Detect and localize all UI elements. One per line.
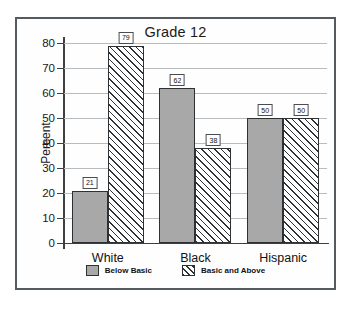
chart-figure: Grade 12 Percent 01020304050607080 2179W… [15,17,336,290]
y-axis-tick-label: 50 [42,112,55,124]
bar-hispanic-basic-and-above[interactable]: 50 [283,118,319,243]
bar-white-below-basic[interactable]: 21 [72,191,108,244]
bar-group: 6238Black [152,43,240,243]
bar-group: 5050Hispanic [239,43,327,243]
bar-value-label: 50 [258,104,273,116]
x-axis-category-label: White [92,251,124,265]
legend-label: Below Basic [105,266,152,275]
legend-swatch-icon [182,265,195,276]
x-axis-category-label: Hispanic [259,251,307,265]
y-axis-tick-label: 40 [42,137,55,149]
bar-black-below-basic[interactable]: 62 [159,88,195,243]
bar-white-basic-and-above[interactable]: 79 [108,46,144,244]
y-axis-tick-mark [57,68,63,69]
bar-value-label: 79 [118,32,133,44]
y-axis-tick-label: 0 [49,237,55,249]
y-axis-tick-mark [57,143,63,144]
legend-swatch-icon [86,265,99,276]
y-axis-tick-label: 20 [42,187,55,199]
y-axis-tick-label: 60 [42,87,55,99]
y-axis-tick-mark [57,218,63,219]
y-axis-tick-label: 70 [42,62,55,74]
y-axis-tick-mark [57,168,63,169]
bar-hispanic-below-basic[interactable]: 50 [247,118,283,243]
bar-value-label: 50 [294,104,309,116]
bar-black-basic-and-above[interactable]: 38 [195,148,231,243]
y-axis-tick-mark [57,118,63,119]
y-axis-tick-mark [57,193,63,194]
chart-title: Grade 12 [17,24,334,40]
legend-item-below-basic[interactable]: Below Basic [86,265,152,276]
bar-value-label: 62 [170,74,185,86]
y-axis-tick-label: 80 [42,37,55,49]
y-axis-tick-mark [57,93,63,94]
y-axis-tick-mark [57,43,63,44]
y-axis-tick-label: 30 [42,162,55,174]
chart-legend: Below BasicBasic and Above [17,265,334,276]
y-axis-tick-label: 10 [42,212,55,224]
bar-group: 2179White [64,43,152,243]
x-axis-category-label: Black [180,251,211,265]
bar-value-label: 21 [82,177,97,189]
bar-value-label: 38 [206,134,221,146]
plot-area: Percent 01020304050607080 2179White6238B… [64,43,327,243]
y-axis-tick-mark [57,243,63,244]
legend-label: Basic and Above [201,266,265,275]
legend-item-basic-and-above[interactable]: Basic and Above [182,265,265,276]
